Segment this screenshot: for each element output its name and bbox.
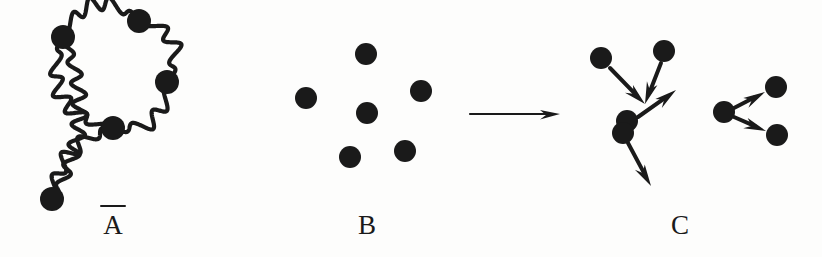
- c-arrow-in-left-shaft: [610, 68, 637, 95]
- b-dot-left: [295, 87, 317, 109]
- panel-label-a-text: A: [103, 212, 123, 239]
- panel-label-a: A: [78, 212, 148, 239]
- c-cluster-right: [713, 76, 788, 146]
- c-arrow-out-lower: [628, 143, 651, 186]
- panel-label-b-text: B: [358, 212, 376, 239]
- panel-label-c-text: C: [671, 212, 689, 239]
- b-dot-bottom-left: [339, 146, 361, 168]
- b-dot-right: [410, 80, 432, 102]
- b-dot-bottom-right: [394, 140, 416, 162]
- c-dot-top-left: [590, 47, 612, 69]
- b-to-c-arrow: [470, 110, 560, 119]
- a-dot-top-right: [127, 9, 151, 33]
- a-dot-junction: [101, 116, 125, 140]
- c-dot-top-right: [653, 40, 675, 62]
- c-dot-pair-lower: [612, 122, 634, 144]
- figure-root: A B C: [0, 0, 822, 257]
- a-seg-tail-inner: [52, 128, 113, 199]
- c-cluster-left: [590, 40, 676, 186]
- panel-c-group: [590, 40, 788, 186]
- a-dot-upper-left: [51, 25, 75, 49]
- a-dot-bottom-end: [40, 187, 64, 211]
- c-arrow-out-upper: [638, 90, 676, 117]
- panel-a-group: [40, 0, 182, 211]
- a-seg-loop-left: [50, 37, 113, 128]
- c-dot-target-upper: [765, 76, 787, 98]
- c-arrow-in-left: [610, 68, 645, 104]
- c-arrow-right-upper: [734, 92, 765, 108]
- panel-b-group: [295, 43, 432, 168]
- b-dot-center: [356, 102, 378, 124]
- c-arrow-right-lower: [734, 117, 766, 131]
- a-dot-right: [155, 70, 179, 94]
- panel-label-c: C: [645, 212, 715, 239]
- transition-arrow-group: [470, 110, 560, 119]
- panel-label-b: B: [332, 212, 402, 239]
- c-dot-target-lower: [766, 124, 788, 146]
- c-dot-source: [713, 101, 735, 123]
- c-arrow-out-upper-head: [655, 90, 676, 108]
- b-dot-top: [355, 43, 377, 65]
